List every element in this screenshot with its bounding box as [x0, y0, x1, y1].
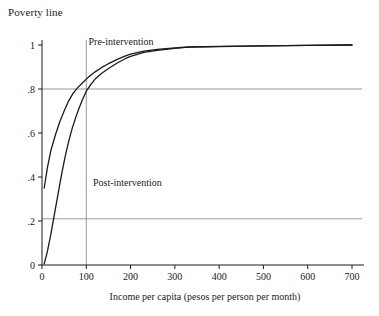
y-tick-label: .8 [28, 84, 36, 95]
post-intervention-label: Post-intervention [93, 177, 162, 188]
x-tick-label: 300 [167, 271, 182, 282]
chart-svg: 0.2.4.6.810100200300400500600700Income p… [0, 0, 379, 316]
x-axis-label: Income per capita (pesos per person per … [110, 291, 301, 303]
y-tick-label: .6 [28, 128, 36, 139]
plot-area: 0.2.4.6.810100200300400500600700Income p… [28, 36, 365, 303]
x-tick-label: 500 [256, 271, 271, 282]
series-pre-intervention [44, 45, 352, 188]
y-tick-label: .4 [28, 172, 36, 183]
x-tick-label: 700 [345, 271, 360, 282]
series-post-intervention [44, 45, 352, 264]
y-tick-label: .2 [28, 216, 36, 227]
pre-intervention-label: Pre-intervention [89, 36, 154, 47]
x-tick-label: 600 [300, 271, 315, 282]
chart-container: Poverty line 0.2.4.6.8101002003004005006… [0, 0, 379, 316]
y-tick-label: 0 [30, 260, 35, 271]
x-tick-label: 100 [79, 271, 94, 282]
y-tick-label: 1 [30, 40, 35, 51]
x-tick-label: 400 [212, 271, 227, 282]
x-tick-label: 200 [123, 271, 138, 282]
x-tick-label: 0 [40, 271, 45, 282]
